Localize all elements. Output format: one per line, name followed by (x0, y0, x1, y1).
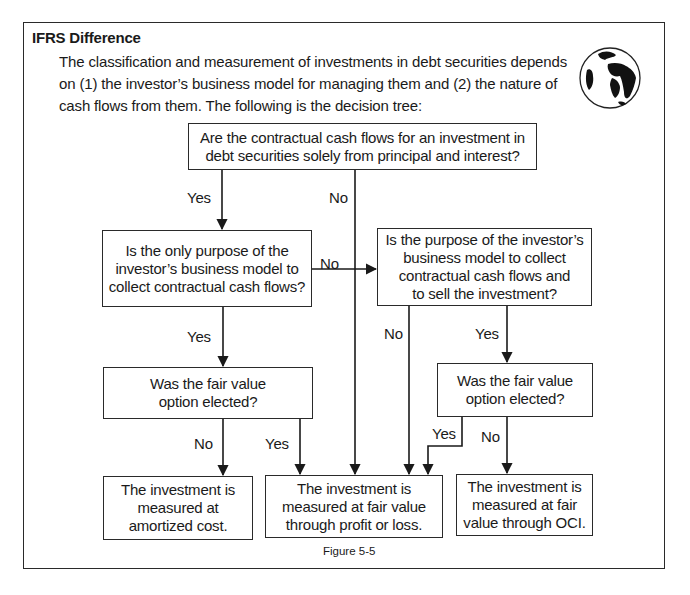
intro-line: on (1) the investor’s business model for… (59, 73, 559, 95)
node-text: Are the contractual cash flows for an in… (200, 129, 525, 147)
outcome-amortized-cost-box: The investment is measured at amortized … (103, 476, 253, 540)
node-text: The investment is (121, 481, 235, 499)
node-text: contractual cash flows and (399, 267, 571, 285)
panel-title: IFRS Difference (32, 29, 141, 46)
edge-label-fvo-right-yes: Yes (432, 425, 456, 442)
edge-label-collect-yes: Yes (187, 328, 211, 345)
edge-label-sppi-yes: Yes (187, 189, 211, 206)
node-text: The investment is (467, 478, 581, 496)
node-text: through profit or loss. (286, 516, 422, 534)
node-text: investor’s business model to (115, 260, 298, 278)
node-text: measured at fair value (282, 498, 426, 516)
edge-label-fvo-right-no: No (481, 428, 500, 445)
edge-label-fvo-left-yes: Yes (265, 435, 289, 452)
question-fair-value-option-right-box: Was the fair value option elected? (437, 363, 593, 417)
node-text: amortized cost. (129, 517, 228, 535)
node-text: The investment is (297, 480, 411, 498)
edge-label-collect-sell-yes: Yes (475, 325, 499, 342)
node-text: measured at fair (472, 496, 577, 514)
edge-label-collect-no: No (320, 255, 339, 272)
node-text: debt securities solely from principal an… (205, 147, 519, 165)
node-text: Is the purpose of the investor’s (385, 231, 583, 249)
globe-icon (578, 46, 642, 110)
outcome-fvpl-box: The investment is measured at fair value… (265, 475, 443, 538)
intro-line: The classification and measurement of in… (59, 51, 559, 73)
edge-label-collect-sell-no: No (384, 325, 403, 342)
question-fair-value-option-left-box: Was the fair value option elected? (103, 367, 313, 419)
node-text: option elected? (159, 393, 258, 411)
node-text: to sell the investment? (412, 285, 557, 303)
outcome-fvoci-box: The investment is measured at fair value… (456, 474, 593, 536)
figure-caption: Figure 5-5 (323, 545, 375, 557)
node-text: Was the fair value (150, 375, 266, 393)
node-text: business model to collect (403, 249, 566, 267)
node-text: collect contractual cash flows? (109, 278, 305, 296)
intro-line: cash flows from them. The following is t… (59, 95, 559, 117)
edge-label-sppi-no: No (329, 189, 348, 206)
question-collect-only-box: Is the only purpose of the investor’s bu… (102, 230, 312, 307)
intro-paragraph: The classification and measurement of in… (59, 51, 559, 117)
node-text: Was the fair value (457, 372, 573, 390)
node-text: option elected? (466, 390, 565, 408)
question-collect-and-sell-box: Is the purpose of the investor’s busines… (377, 228, 592, 306)
node-text: measured at (137, 499, 218, 517)
node-text: value through OCI. (463, 514, 585, 532)
question-sppi-box: Are the contractual cash flows for an in… (188, 123, 537, 170)
node-text: Is the only purpose of the (125, 242, 288, 260)
edge-label-fvo-left-no: No (194, 435, 213, 452)
